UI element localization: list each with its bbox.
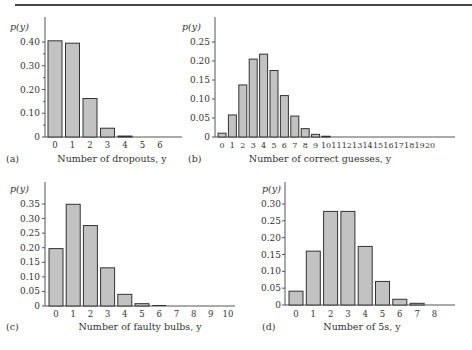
- x-tick-label: 3: [251, 141, 256, 150]
- x-tick-label: 6: [397, 309, 402, 319]
- x-tick-label: 1: [70, 309, 75, 319]
- y-tick-label: 0.35: [20, 199, 40, 209]
- x-tick-label: 2: [240, 141, 245, 150]
- bar: [322, 136, 330, 137]
- panel-label: (b): [188, 153, 202, 164]
- bar: [228, 115, 236, 137]
- y-tick-label: 0: [275, 300, 281, 310]
- y-tick-label: 0.30: [20, 214, 40, 224]
- x-tick-label: 9: [208, 309, 213, 319]
- bar: [249, 59, 257, 137]
- x-tick-label: 14: [363, 141, 373, 150]
- x-axis-label: Number of 5s, y: [323, 321, 401, 332]
- x-tick-label: 0: [219, 141, 224, 150]
- y-tick-label: 0.25: [20, 228, 40, 238]
- y-tick-label: 0: [34, 301, 40, 311]
- x-tick-label: 6: [282, 141, 287, 150]
- bar: [218, 133, 226, 137]
- x-tick-label: 18: [404, 141, 414, 150]
- y-tick-label: 0.05: [20, 286, 40, 296]
- y-axis-label: p(y): [182, 21, 201, 32]
- bar: [66, 43, 80, 137]
- x-tick-label: 13: [352, 141, 362, 150]
- x-tick-label: 4: [261, 141, 266, 150]
- y-tick-label: 0.20: [190, 56, 210, 66]
- x-tick-label: 4: [122, 309, 127, 319]
- y-tick-label: 0.25: [261, 216, 281, 226]
- y-tick-label: 0.20: [261, 233, 281, 243]
- x-tick-label: 19: [415, 141, 425, 150]
- y-axis-label: p(y): [10, 183, 29, 194]
- y-tick-label: 0.15: [20, 257, 40, 267]
- bar: [358, 246, 372, 305]
- bar: [118, 136, 132, 137]
- x-tick-label: 0: [293, 309, 298, 319]
- panel-label: (a): [6, 153, 19, 164]
- bar: [48, 41, 62, 137]
- x-axis-label: Number of faulty bulbs, y: [78, 321, 202, 332]
- bar: [135, 304, 149, 306]
- x-tick-label: 3: [105, 309, 110, 319]
- y-tick-label: 0.30: [261, 199, 281, 209]
- x-tick-label: 5: [380, 309, 385, 319]
- bar: [66, 204, 80, 306]
- x-tick-label: 8: [191, 309, 196, 319]
- y-tick-label: 0.15: [190, 75, 210, 85]
- x-tick-label: 2: [88, 309, 93, 319]
- x-tick-label: 1: [70, 140, 75, 150]
- bar: [393, 299, 407, 305]
- x-tick-label: 4: [122, 140, 127, 150]
- bar: [289, 291, 303, 305]
- x-tick-label: 11: [331, 141, 341, 150]
- bar: [49, 249, 63, 306]
- x-tick-label: 15: [373, 141, 383, 150]
- x-tick-label: 0: [53, 309, 58, 319]
- x-tick-label: 1: [230, 141, 235, 150]
- bar: [101, 268, 115, 306]
- y-tick-label: 0: [204, 132, 210, 142]
- x-tick-label: 17: [394, 141, 404, 150]
- x-tick-label: 4: [362, 309, 367, 319]
- bar: [239, 85, 247, 137]
- chart-panel-c: 00.050.100.150.200.250.300.35p(y)0123456…: [6, 182, 235, 332]
- y-tick-label: 0.40: [20, 37, 40, 47]
- x-tick-label: 2: [328, 309, 333, 319]
- y-tick-label: 0.10: [261, 266, 281, 276]
- x-tick-label: 7: [414, 309, 419, 319]
- x-tick-label: 10: [321, 141, 331, 150]
- y-tick-label: 0.15: [261, 250, 281, 260]
- figure: 00.100.200.300.40p(y)0123456(a)Number of…: [0, 0, 472, 350]
- chart-panel-d: 00.050.100.150.200.250.30p(y)012345678(d…: [261, 182, 455, 332]
- bar: [410, 303, 424, 305]
- y-tick-label: 0.20: [20, 85, 40, 95]
- bar: [376, 281, 390, 305]
- x-tick-label: 1: [311, 309, 316, 319]
- bar: [306, 251, 320, 305]
- bar: [324, 211, 338, 305]
- bar: [341, 211, 355, 305]
- x-axis-label: Number of correct guesses, y: [249, 153, 392, 164]
- bar: [270, 71, 278, 138]
- y-tick-label: 0.20: [20, 243, 40, 253]
- bar: [301, 129, 309, 137]
- y-tick-label: 0.05: [190, 113, 210, 123]
- panel-label: (d): [262, 321, 276, 332]
- bar: [312, 134, 320, 137]
- bar: [291, 116, 299, 137]
- x-tick-label: 5: [271, 141, 276, 150]
- y-tick-label: 0.05: [261, 283, 281, 293]
- y-tick-label: 0.10: [20, 108, 40, 118]
- y-axis-label: p(y): [262, 183, 281, 194]
- x-tick-label: 8: [303, 141, 308, 150]
- y-axis-label: p(y): [10, 21, 29, 32]
- bar: [83, 226, 97, 306]
- x-tick-label: 8: [432, 309, 437, 319]
- x-tick-label: 2: [87, 140, 92, 150]
- x-axis-label: Number of dropouts, y: [57, 153, 167, 164]
- y-tick-label: 0: [34, 132, 40, 142]
- bar: [101, 128, 115, 137]
- x-tick-label: 10: [223, 309, 234, 319]
- y-tick-label: 0.10: [20, 272, 40, 282]
- y-tick-label: 0.10: [190, 94, 210, 104]
- x-tick-label: 6: [156, 309, 161, 319]
